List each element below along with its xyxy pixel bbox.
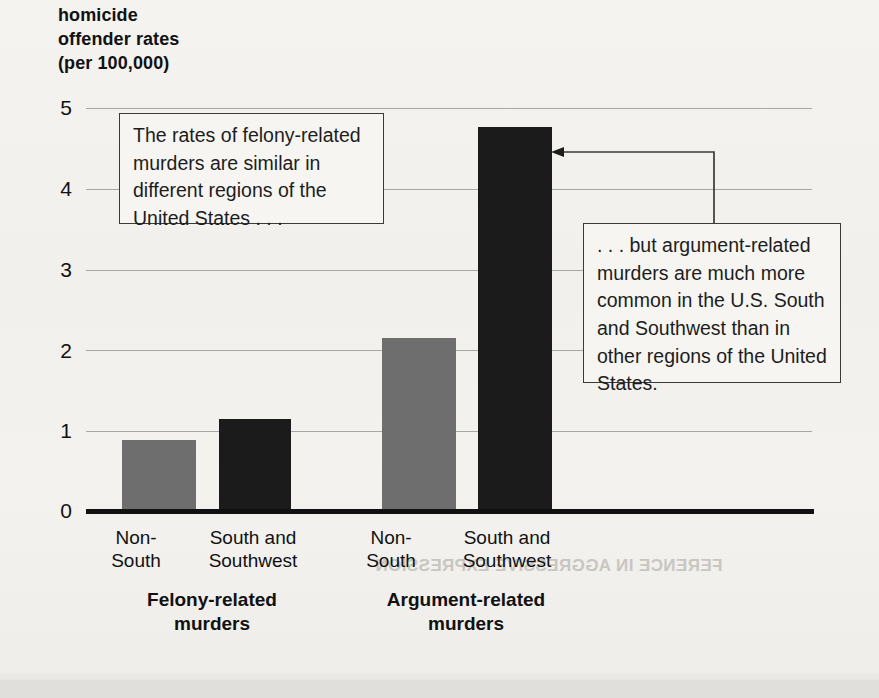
gridline-5 bbox=[86, 108, 812, 109]
y-tick-3: 3 bbox=[44, 258, 72, 282]
bar-argument-south-southwest bbox=[478, 127, 552, 512]
callout-argument: . . . but argument-related murders are m… bbox=[583, 223, 841, 383]
x-label-felony-south-southwest: South and Southwest bbox=[183, 526, 323, 572]
scan-edge-band bbox=[0, 680, 879, 698]
x-axis-line bbox=[86, 509, 814, 514]
x-label-argument-south-southwest: South and Southwest bbox=[437, 526, 577, 572]
bar-felony-south-southwest bbox=[219, 419, 291, 512]
bar-argument-non-south bbox=[382, 338, 456, 512]
group-label-felony: Felony-related murders bbox=[101, 588, 323, 636]
bar-felony-non-south bbox=[122, 440, 196, 512]
x-label-felony-non-south: Non- South bbox=[96, 526, 176, 572]
group-label-argument: Argument-related murders bbox=[355, 588, 577, 636]
y-tick-1: 1 bbox=[44, 419, 72, 443]
y-tick-0: 0 bbox=[44, 499, 72, 523]
y-tick-4: 4 bbox=[44, 177, 72, 201]
y-tick-2: 2 bbox=[44, 339, 72, 363]
chart-title: homicide offender rates (per 100,000) bbox=[58, 4, 179, 76]
callout-felony: The rates of felony-related murders are … bbox=[119, 113, 384, 224]
y-tick-5: 5 bbox=[44, 96, 72, 120]
x-label-argument-non-south: Non- South bbox=[351, 526, 431, 572]
